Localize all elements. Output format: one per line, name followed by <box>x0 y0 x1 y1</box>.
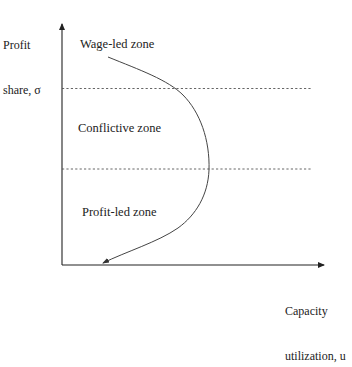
conflictive-zone-label: Conflictive zone <box>78 121 161 136</box>
x-axis-label-line2: utilization, u <box>285 349 346 364</box>
y-axis-label-line1: Profit <box>3 38 41 53</box>
regime-curve <box>103 57 209 263</box>
y-axis-label-line2: share, σ <box>3 83 41 98</box>
wage-led-zone-label: Wage-led zone <box>80 37 154 52</box>
x-axis-label: Capacity utilization, u <box>285 274 346 367</box>
y-axis-label: Profit share, σ <box>3 8 41 128</box>
x-axis-label-line1: Capacity <box>285 304 346 319</box>
profit-led-zone-label: Profit-led zone <box>82 205 157 220</box>
